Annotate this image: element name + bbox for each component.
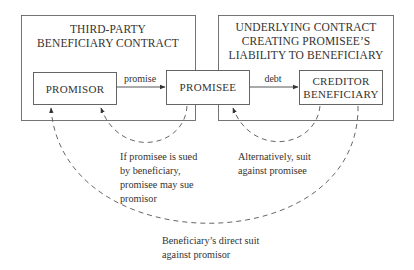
- group-title-line: UNDERLYING CONTRACT: [236, 21, 377, 33]
- edge-promisee-sues-promisor: [101, 106, 187, 142]
- note-line: against promisee: [238, 165, 307, 176]
- edge-debt: debt: [250, 73, 299, 87]
- note-promisee-may-sue: If promisee is sued by beneficiary, prom…: [120, 151, 197, 204]
- group-title-line: THIRD-PARTY: [70, 23, 147, 35]
- group-title-line: LIABILITY TO BENEFICIARY: [229, 49, 384, 61]
- edge-direct-suit-against-promisor: [51, 106, 358, 223]
- node-label: PROMISEE: [180, 81, 237, 93]
- node-label: BENEFICIARY: [303, 88, 378, 100]
- group-title-line: CREATING PROMISEE’S: [242, 35, 371, 47]
- edge-label: debt: [264, 73, 281, 84]
- node-creditor-beneficiary: CREDITOR BENEFICIARY: [300, 71, 383, 105]
- group-title-line: BENEFICIARY CONTRACT: [37, 37, 179, 49]
- edge-promise: promise: [117, 73, 166, 87]
- node-promisor: PROMISOR: [34, 73, 117, 105]
- note-alternative-suit: Alternatively, suit against promisee: [238, 151, 311, 176]
- node-label: PROMISOR: [46, 83, 105, 95]
- note-line: by beneficiary,: [120, 165, 180, 176]
- note-line: Beneficiary’s direct suit: [162, 235, 259, 246]
- edge-suit-against-promisee: [233, 106, 320, 142]
- note-line: promisee may sue: [120, 179, 194, 190]
- node-promisee: PROMISEE: [167, 71, 250, 105]
- note-line: against promisor: [162, 249, 231, 260]
- node-label: CREDITOR: [312, 75, 370, 87]
- note-line: promisor: [120, 193, 157, 204]
- note-line: If promisee is sued: [120, 151, 197, 162]
- note-line: Alternatively, suit: [238, 151, 311, 162]
- edge-label: promise: [124, 73, 157, 84]
- third-party-beneficiary-diagram: THIRD-PARTY BENEFICIARY CONTRACT UNDERLY…: [0, 0, 414, 270]
- note-direct-suit: Beneficiary’s direct suit against promis…: [162, 235, 259, 260]
